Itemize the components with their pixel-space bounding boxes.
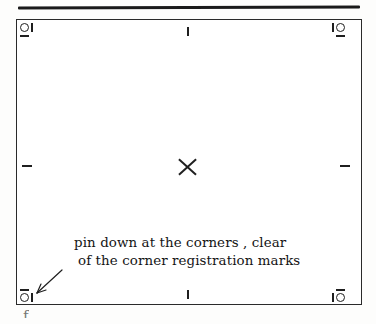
caption-text: pin down at the corners , clear of the c… — [74, 234, 324, 269]
edge-tick-right-center — [340, 165, 350, 167]
registration-bar-icon — [31, 23, 33, 32]
edge-tick-bottom-center — [187, 290, 189, 299]
top-rule — [18, 5, 360, 9]
registration-dash-icon — [336, 35, 345, 37]
edge-tick-top-center — [187, 27, 189, 36]
registration-mark-bottom-right — [332, 289, 358, 309]
registration-dash-icon — [20, 35, 29, 37]
registration-bar-icon — [332, 293, 334, 302]
registration-bar-icon — [332, 23, 334, 32]
registration-circle-icon — [20, 23, 29, 32]
stray-glyph: f — [23, 309, 29, 318]
registration-circle-icon — [336, 23, 345, 32]
registration-circle-icon — [336, 293, 345, 302]
registration-dash-icon — [20, 289, 29, 291]
diagram-page: pin down at the corners , clear of the c… — [0, 0, 376, 324]
caption-line-2: of the corner registration marks — [78, 252, 324, 270]
registration-circle-icon — [20, 293, 29, 302]
caption-line-1: pin down at the corners , clear — [74, 234, 324, 252]
registration-mark-top-left — [20, 23, 46, 43]
registration-dash-icon — [336, 289, 345, 291]
center-cross-icon — [176, 155, 199, 178]
pointer-arrow-icon — [30, 268, 64, 298]
edge-tick-left-center — [22, 165, 32, 167]
registration-mark-top-right — [332, 23, 358, 43]
